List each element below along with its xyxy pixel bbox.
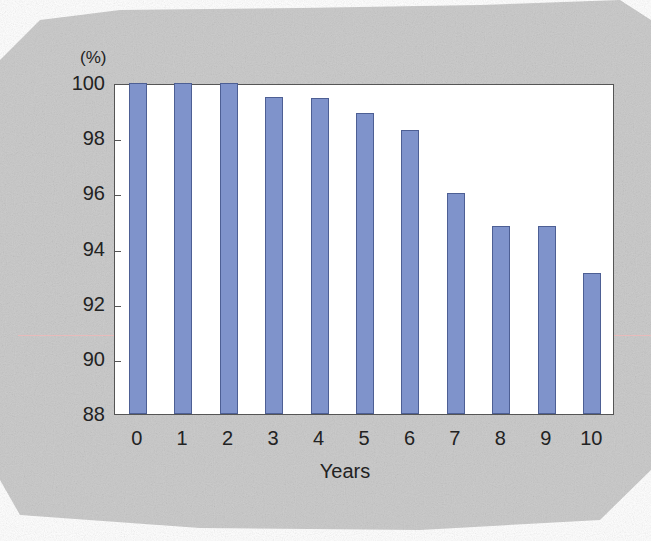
y-tick [115,361,121,362]
bar-year-7 [447,193,465,414]
y-tick-label: 90 [83,349,105,369]
y-tick-label: 96 [83,183,105,203]
bar-year-1 [174,83,192,414]
bar-year-5 [356,113,374,414]
x-tick-label: 6 [394,427,424,450]
bar-year-6 [401,130,419,414]
chart-stage: (%) Years 012345678910889092949698100 [0,0,651,541]
bar-year-0 [129,83,147,414]
x-tick-label: 0 [122,427,152,450]
bar-year-9 [538,226,556,414]
x-axis-title: Years [310,460,380,483]
x-tick-label: 1 [167,427,197,450]
x-tick-label: 9 [531,427,561,450]
bar-year-10 [583,273,601,414]
x-tick-label: 5 [349,427,379,450]
plot-area [114,84,614,415]
bar-year-2 [220,83,238,414]
y-tick [115,306,121,307]
y-tick [115,251,121,252]
x-tick-label: 8 [485,427,515,450]
y-tick [115,195,121,196]
x-tick-label: 2 [213,427,243,450]
y-tick [115,140,121,141]
x-tick-label: 10 [576,427,606,450]
y-tick-label: 100 [72,73,105,93]
x-tick-label: 7 [440,427,470,450]
y-tick-label: 92 [83,294,105,314]
bar-year-8 [492,226,510,414]
x-tick-label: 4 [304,427,334,450]
y-tick-label: 94 [83,239,105,259]
bar-year-4 [311,98,329,414]
y-tick-label: 88 [83,404,105,424]
bar-year-3 [265,97,283,414]
y-axis-unit: (%) [80,48,106,68]
x-tick-label: 3 [258,427,288,450]
y-tick-label: 98 [83,128,105,148]
